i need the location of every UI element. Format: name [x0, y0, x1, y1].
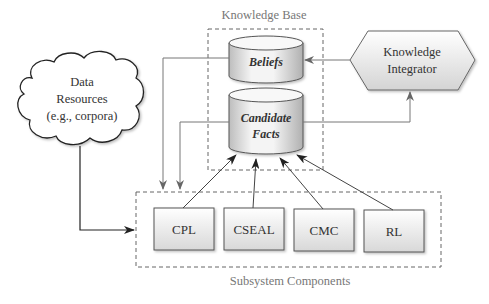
beliefs-label: Beliefs: [248, 55, 283, 69]
arrow-beliefs-to-subsystem: [163, 58, 229, 189]
knowledge-base-title: Knowledge Base: [221, 8, 306, 22]
component-cpl[interactable]: CPL: [154, 208, 214, 250]
arrow-cseal-to-candidate-facts: [253, 159, 256, 208]
arrow-candidate-facts-to-subsystem: [180, 122, 229, 189]
candidate-facts-label-line1: Candidate: [241, 111, 292, 125]
arrow-rl-to-candidate-facts: [297, 155, 393, 210]
knowledge-integrator-node[interactable]: [350, 31, 475, 90]
component-cmc-label: CMC: [310, 223, 339, 238]
data-resources-label-line2: Resources: [56, 92, 108, 106]
data-resources-label-line1: Data: [70, 75, 94, 89]
component-rl-label: RL: [386, 224, 403, 239]
component-cmc[interactable]: CMC: [294, 209, 354, 251]
component-cseal[interactable]: CSEAL: [224, 208, 284, 250]
arrow-data-resources-to-subsystem: [80, 146, 134, 230]
subsystem-title: Subsystem Components: [230, 274, 351, 288]
knowledge-integrator-label-line1: Knowledge: [383, 45, 441, 59]
component-cseal-label: CSEAL: [233, 222, 274, 237]
data-resources-label-line3: (e.g., corpora): [47, 109, 118, 123]
arrow-cpl-to-candidate-facts: [183, 155, 236, 208]
component-cpl-label: CPL: [172, 222, 196, 237]
component-rl[interactable]: RL: [364, 210, 424, 252]
diagram-canvas: Knowledge Base Beliefs Candidate Facts K…: [0, 0, 489, 304]
candidate-facts-label-line2: Facts: [251, 127, 280, 141]
arrow-candidate-facts-to-integrator: [303, 92, 410, 122]
knowledge-integrator-label-line2: Integrator: [387, 62, 437, 76]
